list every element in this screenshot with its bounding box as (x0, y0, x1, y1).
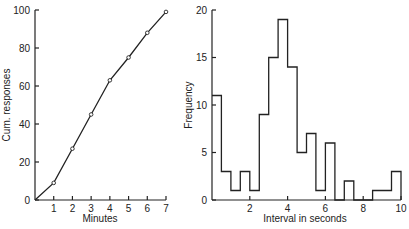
x-tick-label: 2 (247, 203, 253, 214)
x-tick-label: 8 (360, 203, 366, 214)
right-y-axis-label: Frequency (183, 81, 194, 128)
y-tick-label: 40 (19, 119, 31, 130)
y-tick-label: 5 (201, 147, 207, 158)
y-tick-label: 0 (24, 195, 30, 206)
histogram-steps (212, 20, 401, 201)
x-tick-label: 2 (70, 203, 76, 214)
left-y-axis-label: Cum. responses (1, 69, 12, 142)
cumulative-responses-chart: 020406080100 1234567 Minutes Cum. respon… (1, 5, 169, 225)
left-y-tick-labels: 020406080100 (13, 5, 30, 206)
data-point-marker (145, 31, 149, 35)
left-axes (35, 10, 166, 200)
right-x-axis-label: Interval in seconds (263, 213, 346, 224)
figure: 020406080100 1234567 Minutes Cum. respon… (0, 0, 409, 229)
data-point-marker (164, 10, 168, 14)
x-tick-label: 1 (51, 203, 57, 214)
y-tick-label: 80 (19, 43, 31, 54)
x-tick-label: 7 (163, 203, 169, 214)
data-point-marker (108, 79, 112, 83)
data-markers (52, 10, 168, 185)
data-point-marker (71, 147, 75, 151)
x-tick-label: 10 (395, 203, 407, 214)
y-tick-label: 0 (201, 195, 207, 206)
y-tick-label: 100 (13, 5, 30, 16)
left-x-axis-label: Minutes (82, 213, 117, 224)
x-tick-label: 5 (126, 203, 132, 214)
frequency-histogram: 05101520 246810 Interval in seconds Freq… (183, 5, 407, 225)
cumulative-line (35, 12, 166, 200)
y-tick-label: 10 (196, 100, 208, 111)
y-tick-label: 20 (19, 157, 31, 168)
y-tick-label: 15 (196, 52, 208, 63)
data-point-marker (127, 56, 131, 60)
right-y-tick-labels: 05101520 (196, 5, 208, 206)
y-tick-label: 20 (196, 5, 208, 16)
y-tick-label: 60 (19, 81, 31, 92)
data-point-marker (52, 181, 56, 185)
data-point-marker (89, 113, 93, 117)
x-tick-label: 6 (145, 203, 151, 214)
